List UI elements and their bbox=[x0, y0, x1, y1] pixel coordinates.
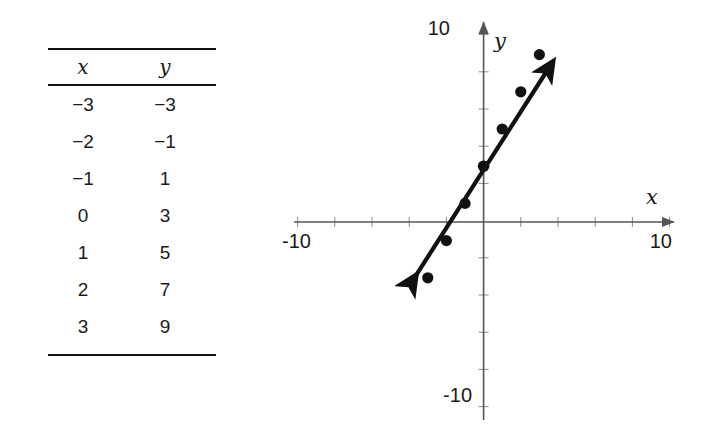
table-row: 2 7 bbox=[48, 271, 216, 308]
x-axis-label: x bbox=[646, 185, 658, 209]
table-row: −3 −3 bbox=[48, 86, 216, 123]
worksheet-page: x y −3 −3 −2 −1 −1 1 bbox=[0, 0, 712, 439]
x-axis-max-label: 10 bbox=[650, 230, 672, 252]
cell-x: 1 bbox=[48, 234, 132, 271]
table-rule-bottom bbox=[48, 355, 216, 356]
table-row: 0 3 bbox=[48, 197, 216, 234]
xy-table: x y −3 −3 −2 −1 −1 1 bbox=[48, 48, 216, 356]
table-header-row: x y bbox=[48, 50, 216, 85]
y-axis-min-label: -10 bbox=[443, 384, 472, 406]
data-point bbox=[515, 86, 526, 97]
y-axis-max-label: 10 bbox=[428, 17, 450, 39]
x-axis-min-label: -10 bbox=[282, 230, 311, 252]
data-point bbox=[497, 123, 508, 134]
table-row: −1 1 bbox=[48, 160, 216, 197]
column-header-y: y bbox=[132, 50, 216, 85]
data-point bbox=[478, 160, 490, 172]
cell-x: 2 bbox=[48, 271, 132, 308]
table-row: 1 5 bbox=[48, 234, 216, 271]
cell-y: −3 bbox=[132, 86, 216, 123]
y-axis-label: y bbox=[493, 29, 507, 53]
column-header-x: x bbox=[48, 50, 132, 85]
cell-y: 5 bbox=[132, 234, 216, 271]
value-table: x y −3 −3 −2 −1 −1 1 bbox=[48, 48, 216, 356]
coordinate-graph: y x 10 -10 -10 10 bbox=[270, 0, 712, 439]
table-spacer bbox=[48, 345, 216, 355]
data-point bbox=[422, 272, 433, 283]
cell-x: −1 bbox=[48, 160, 132, 197]
cell-y: −1 bbox=[132, 123, 216, 160]
cell-y: 1 bbox=[132, 160, 216, 197]
table-row: −2 −1 bbox=[48, 123, 216, 160]
cell-y: 7 bbox=[132, 271, 216, 308]
data-point bbox=[534, 49, 545, 60]
data-point bbox=[459, 198, 470, 209]
cell-x: 0 bbox=[48, 197, 132, 234]
data-point bbox=[441, 235, 452, 246]
table-row: 3 9 bbox=[48, 308, 216, 345]
graph-svg: y x 10 -10 -10 10 bbox=[270, 0, 712, 439]
cell-x: −3 bbox=[48, 86, 132, 123]
cell-y: 3 bbox=[132, 197, 216, 234]
cell-x: −2 bbox=[48, 123, 132, 160]
cell-y: 9 bbox=[132, 308, 216, 345]
cell-x: 3 bbox=[48, 308, 132, 345]
